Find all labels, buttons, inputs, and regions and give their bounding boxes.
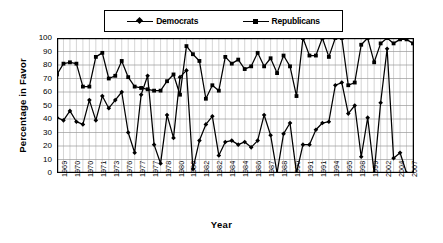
x-axis-title: Year bbox=[0, 219, 443, 230]
square-marker-icon bbox=[243, 17, 269, 26]
chart-container: Democrats Republicans Percentage in Favo… bbox=[0, 0, 443, 243]
y-tick-label: 80 bbox=[30, 60, 52, 69]
chart-legend: Democrats Republicans bbox=[104, 10, 343, 32]
y-tick-label: 70 bbox=[30, 74, 52, 83]
y-tick-label: 40 bbox=[30, 114, 52, 123]
diamond-marker-icon bbox=[127, 17, 153, 26]
y-tick-label: 50 bbox=[30, 101, 52, 110]
legend-label-democrats: Democrats bbox=[156, 16, 198, 26]
y-axis-title: Percentage in Favor bbox=[17, 36, 28, 176]
legend-entry-republicans: Republicans bbox=[243, 16, 320, 26]
y-tick-label: 30 bbox=[30, 128, 52, 137]
y-tick-label: 20 bbox=[30, 141, 52, 150]
chart-svg bbox=[57, 38, 414, 173]
y-tick-label: 0 bbox=[30, 168, 52, 177]
y-tick-label: 90 bbox=[30, 47, 52, 56]
y-tick-label: 10 bbox=[30, 155, 52, 164]
y-tick-label: 60 bbox=[30, 87, 52, 96]
legend-label-republicans: Republicans bbox=[272, 16, 320, 26]
y-tick-label: 100 bbox=[30, 33, 52, 42]
legend-entry-democrats: Democrats bbox=[127, 16, 198, 26]
plot-area bbox=[57, 38, 414, 173]
